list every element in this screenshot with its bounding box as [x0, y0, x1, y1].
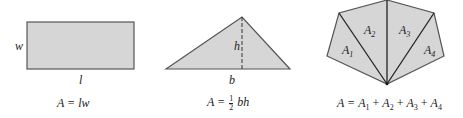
region-a4-label: A4 [424, 44, 435, 61]
triangle-base-label: b [229, 74, 235, 86]
polygon-area-formula: A = A1 + A2 + A3 + A4 [337, 96, 442, 115]
region-a3-label: A3 [399, 24, 410, 41]
triangle-shape [166, 17, 290, 69]
region-a2-label: A2 [364, 24, 375, 41]
polygon-shape [327, 0, 444, 84]
rectangle-length-label: l [79, 74, 82, 86]
one-half-fraction: 12 [229, 95, 233, 112]
rectangle-shape [27, 22, 134, 69]
triangle-height-label: h [234, 40, 240, 52]
triangle-area-formula: A = 12 bh [207, 95, 249, 112]
region-a1-label: A1 [342, 44, 353, 61]
polygon-vertex-dot [386, 83, 389, 86]
rectangle-area-formula: A = lw [57, 96, 90, 110]
rectangle-width-label: w [15, 40, 23, 52]
